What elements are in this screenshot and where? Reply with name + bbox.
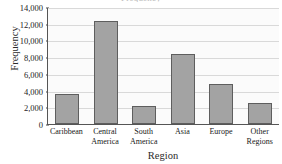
bars-layer xyxy=(48,8,279,124)
chart-title: Frequency xyxy=(0,0,282,2)
bar-chart-figure: Frequency Frequency 02,0004,0006,0008,00… xyxy=(0,0,282,164)
y-tick-label: 2,000 xyxy=(24,104,43,113)
bar-slot xyxy=(241,8,280,124)
x-tick-label-line: South xyxy=(124,127,163,137)
bar-slot xyxy=(48,8,87,124)
x-tick-label: SouthAmerica xyxy=(124,127,163,146)
x-axis-title: Region xyxy=(47,150,279,161)
x-tick-label-line: Other xyxy=(240,127,279,137)
y-tick-label: 6,000 xyxy=(24,71,43,80)
bar-other-regions[interactable] xyxy=(248,103,272,124)
y-tick-label: 14,000 xyxy=(20,4,43,13)
x-tick-label-line: America xyxy=(124,137,163,147)
bar-south-america[interactable] xyxy=(132,106,156,124)
y-tick-label: 8,000 xyxy=(24,54,43,63)
y-tick-label: 4,000 xyxy=(24,87,43,96)
bar-slot xyxy=(164,8,203,124)
bar-slot xyxy=(202,8,241,124)
bar-central-america[interactable] xyxy=(94,21,118,124)
bar-asia[interactable] xyxy=(171,54,195,124)
x-tick-label: Asia xyxy=(163,127,202,146)
x-tick-label-line: Central xyxy=(86,127,125,137)
bar-slot xyxy=(87,8,126,124)
bar-slot xyxy=(125,8,164,124)
x-tick-label-line: Caribbean xyxy=(47,127,86,137)
x-tick-label: Europe xyxy=(202,127,241,146)
y-tick-label: 10,000 xyxy=(20,37,43,46)
x-axis-tick-labels: CaribbeanCentralAmericaSouthAmericaAsiaE… xyxy=(47,127,279,146)
bar-caribbean[interactable] xyxy=(55,94,79,124)
plot-area xyxy=(47,8,279,125)
y-tick-label: 12,000 xyxy=(20,20,43,29)
x-tick-label-line: America xyxy=(86,137,125,147)
x-tick-label: OtherRegions xyxy=(240,127,279,146)
bar-europe[interactable] xyxy=(209,84,233,124)
x-tick-label-line: Regions xyxy=(240,137,279,147)
x-tick-label: Caribbean xyxy=(47,127,86,146)
y-tick-label: 0 xyxy=(39,121,43,130)
x-tick-label-line: Asia xyxy=(163,127,202,137)
y-axis-tick-labels: 02,0004,0006,0008,00010,00012,00014,000 xyxy=(10,8,46,125)
x-tick-label: CentralAmerica xyxy=(86,127,125,146)
x-tick-label-line: Europe xyxy=(202,127,241,137)
